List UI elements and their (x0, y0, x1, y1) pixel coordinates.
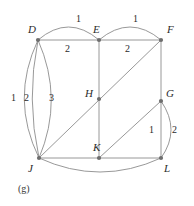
weight-E-F-line: 2 (125, 44, 130, 54)
edge-D-E-arc (38, 27, 99, 40)
vertex-L (159, 156, 163, 160)
vertex-label-H: H (85, 88, 93, 99)
weight-E-F-arc: 1 (133, 14, 138, 24)
vertex-F (159, 38, 163, 42)
weight-G-L-arc: 2 (172, 125, 177, 135)
vertex-label-G: G (166, 88, 174, 99)
weight-D-J-2: 2 (24, 93, 29, 103)
vertex-label-L: L (164, 163, 170, 174)
edge-G-L-arc (161, 101, 171, 158)
weight-D-J-3: 3 (49, 93, 54, 103)
vertex-E (97, 38, 101, 42)
weight-D-E-arc: 1 (76, 14, 81, 24)
vertex-J (37, 156, 41, 160)
weight-D-E-line: 2 (65, 44, 70, 54)
graph-figure: DEFHGJKL 112212312 (g) (0, 0, 194, 206)
figure-caption: (g) (18, 183, 30, 194)
vertex-label-J: J (28, 163, 33, 174)
edge-J-L-arc (39, 158, 161, 172)
vertex-label-F: F (167, 24, 174, 35)
vertex-label-D: D (28, 24, 36, 35)
vertex-H (97, 97, 101, 101)
vertex-label-K: K (93, 142, 100, 153)
vertex-K (97, 156, 101, 160)
vertex-D (36, 38, 40, 42)
vertex-label-E: E (93, 24, 100, 35)
weight-D-J-1: 1 (11, 93, 16, 103)
weight-G-L-line: 1 (149, 125, 154, 135)
edge-E-F-arc (99, 27, 161, 40)
edge-D-J-arc-mid (32, 40, 39, 158)
vertex-G (159, 99, 163, 103)
